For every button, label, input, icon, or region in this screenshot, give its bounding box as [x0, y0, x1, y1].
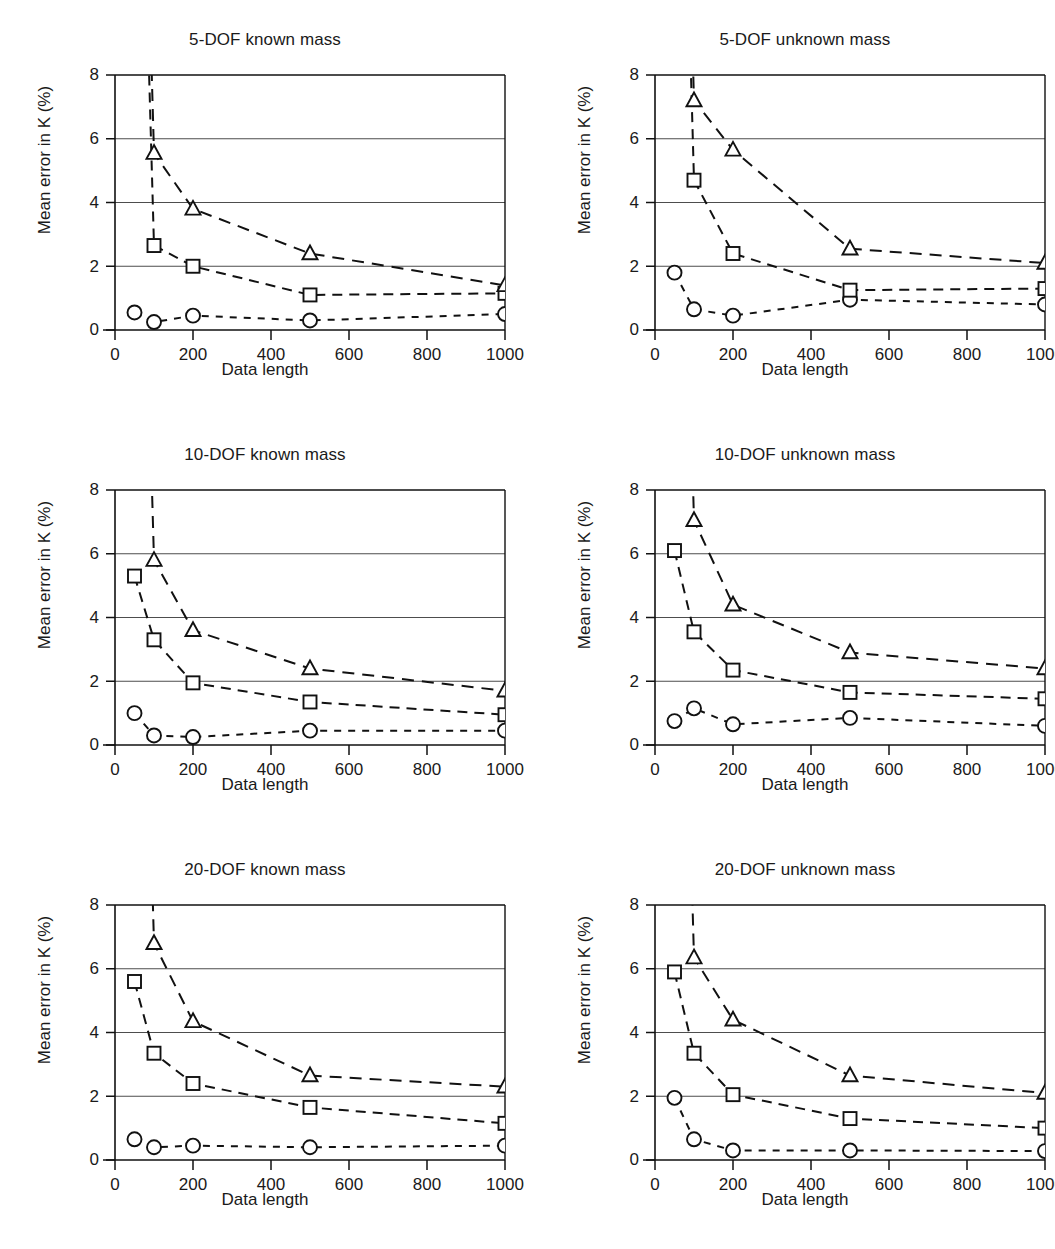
x-tick-label: 200: [719, 1175, 747, 1194]
triangle-marker: [1037, 1085, 1052, 1099]
circle-marker: [726, 1143, 740, 1157]
x-tick-label: 600: [335, 1175, 363, 1194]
chart-panel: 10-DOF unknown massMean error in K (%)Da…: [555, 445, 1055, 845]
circle-marker: [668, 714, 682, 728]
x-tick-label: 1000: [1026, 1175, 1055, 1194]
circle-marker: [687, 1132, 701, 1146]
x-tick-label: 600: [875, 760, 903, 779]
y-tick-label: 2: [630, 1087, 639, 1106]
x-tick-label: 0: [110, 345, 119, 364]
chart-panel: 10-DOF known massMean error in K (%)Data…: [15, 445, 515, 845]
x-tick-label: 0: [650, 1175, 659, 1194]
circle-marker: [147, 728, 161, 742]
circle-marker: [128, 706, 142, 720]
x-tick-label: 800: [953, 1175, 981, 1194]
square-marker: [128, 975, 141, 988]
y-tick-label: 2: [630, 257, 639, 276]
y-tick-label: 6: [630, 129, 639, 148]
circle-marker: [147, 315, 161, 329]
series-group: [128, 0, 513, 329]
y-tick-label: 4: [630, 193, 639, 212]
x-tick-label: 200: [719, 345, 747, 364]
square-marker: [128, 570, 141, 583]
y-tick-label: 4: [90, 193, 99, 212]
plot-area: 0246802004006008001000: [15, 445, 515, 845]
y-tick-label: 2: [630, 672, 639, 691]
series-line-triangle: [148, 0, 505, 285]
y-tick-label: 8: [90, 895, 99, 914]
triangle-marker: [686, 93, 701, 107]
x-tick-label: 400: [797, 1175, 825, 1194]
y-tick-label: 0: [90, 1150, 99, 1169]
y-tick-label: 8: [630, 480, 639, 499]
y-tick-label: 6: [630, 544, 639, 563]
square-marker: [148, 1047, 161, 1060]
x-tick-label: 0: [650, 345, 659, 364]
circle-marker: [498, 307, 512, 321]
plot-area: 0246802004006008001000: [555, 445, 1055, 845]
x-tick-label: 400: [797, 345, 825, 364]
plot-area: 0246802004006008001000: [15, 30, 515, 430]
triangle-marker: [842, 645, 857, 659]
square-marker: [148, 633, 161, 646]
y-tick-label: 0: [90, 320, 99, 339]
x-tick-label: 200: [719, 760, 747, 779]
circle-marker: [1038, 1144, 1052, 1158]
y-tick-label: 0: [630, 735, 639, 754]
x-tick-label: 800: [953, 760, 981, 779]
square-marker: [1039, 282, 1052, 295]
circle-marker: [128, 1132, 142, 1146]
triangle-marker: [842, 241, 857, 255]
circle-marker: [303, 313, 317, 327]
square-marker: [187, 260, 200, 273]
x-tick-label: 400: [257, 760, 285, 779]
y-tick-label: 0: [630, 320, 639, 339]
y-tick-label: 6: [630, 959, 639, 978]
square-marker: [727, 664, 740, 677]
chart-panel: 20-DOF known massMean error in K (%)Data…: [15, 860, 515, 1249]
triangle-marker: [686, 950, 701, 964]
y-tick-label: 4: [90, 1023, 99, 1042]
triangle-marker: [725, 1012, 740, 1026]
x-tick-label: 600: [335, 345, 363, 364]
x-tick-label: 0: [650, 760, 659, 779]
square-marker: [187, 676, 200, 689]
x-tick-label: 400: [257, 345, 285, 364]
triangle-marker: [302, 1068, 317, 1082]
y-tick-label: 6: [90, 544, 99, 563]
x-tick-label: 1000: [1026, 760, 1055, 779]
circle-marker: [726, 309, 740, 323]
triangle-marker: [686, 512, 701, 526]
square-marker: [304, 288, 317, 301]
series-line-square: [675, 972, 1046, 1128]
circle-marker: [1038, 719, 1052, 733]
y-tick-label: 4: [90, 608, 99, 627]
y-tick-label: 0: [90, 735, 99, 754]
circle-marker: [186, 1139, 200, 1153]
square-marker: [668, 544, 681, 557]
y-tick-label: 8: [630, 65, 639, 84]
y-tick-label: 8: [630, 895, 639, 914]
square-marker: [499, 708, 512, 721]
x-tick-label: 200: [179, 1175, 207, 1194]
x-tick-label: 800: [953, 345, 981, 364]
triangle-marker: [842, 1068, 857, 1082]
triangle-marker: [185, 1013, 200, 1027]
x-tick-label: 400: [797, 760, 825, 779]
plot-area: 0246802004006008001000: [555, 30, 1055, 430]
circle-marker: [1038, 298, 1052, 312]
circle-marker: [186, 730, 200, 744]
y-tick-label: 2: [90, 1087, 99, 1106]
x-tick-label: 600: [335, 760, 363, 779]
square-marker: [1039, 692, 1052, 705]
series-line-square: [688, 0, 1045, 290]
series-line-square: [135, 576, 506, 715]
series-line-square: [135, 982, 506, 1124]
triangle-marker: [146, 145, 161, 159]
y-tick-label: 2: [90, 257, 99, 276]
x-tick-label: 800: [413, 760, 441, 779]
x-tick-label: 1000: [486, 760, 524, 779]
x-tick-label: 1000: [486, 345, 524, 364]
circle-marker: [498, 724, 512, 738]
square-marker: [304, 1101, 317, 1114]
